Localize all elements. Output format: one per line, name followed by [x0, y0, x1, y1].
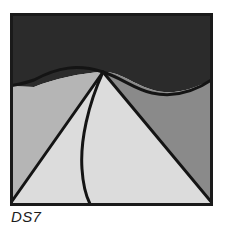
figure-panel — [10, 13, 213, 206]
figure-root: DS7 — [0, 0, 226, 229]
figure-svg — [10, 13, 213, 206]
figure-caption: DS7 — [11, 208, 41, 226]
